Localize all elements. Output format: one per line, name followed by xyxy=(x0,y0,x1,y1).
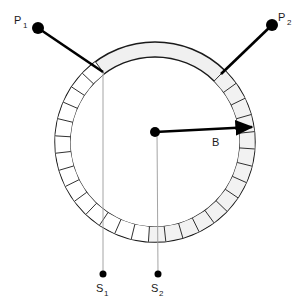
radius-label-b: B xyxy=(212,136,219,148)
probe-dot xyxy=(266,19,278,31)
reference-drop-lines xyxy=(100,72,162,278)
radius-arrow-line xyxy=(155,127,252,132)
probe-label-p1-subscript: 1 xyxy=(23,21,28,30)
ring-segments xyxy=(55,62,255,242)
segment-cell xyxy=(240,132,255,149)
station-label-s2: S xyxy=(151,282,158,294)
station-label-s1: S xyxy=(96,282,103,294)
probe-dot xyxy=(32,22,44,34)
drop-line-endpoint-dot xyxy=(100,271,107,278)
annular-ring-schematic: P1P2S1S2B xyxy=(0,0,298,304)
segment-cell xyxy=(55,136,70,153)
technical-diagram: P1P2S1S2B xyxy=(0,0,298,304)
drop-line-endpoint-dot xyxy=(155,271,162,278)
station-label-s2-subscript: 2 xyxy=(159,289,164,298)
station-label-s1-subscript: 1 xyxy=(104,289,109,298)
center-marker xyxy=(150,127,160,137)
radius-arrow-b xyxy=(155,127,252,132)
center-dot xyxy=(150,127,160,137)
segment-cell xyxy=(148,227,165,242)
probe-label-p2-subscript: 2 xyxy=(287,18,292,27)
probe-label-p2: P xyxy=(278,11,285,23)
drop-line xyxy=(157,132,158,274)
probe-lead-line xyxy=(221,25,272,74)
probe-label-p1: P xyxy=(14,14,21,26)
probe-lead-line xyxy=(38,28,103,72)
